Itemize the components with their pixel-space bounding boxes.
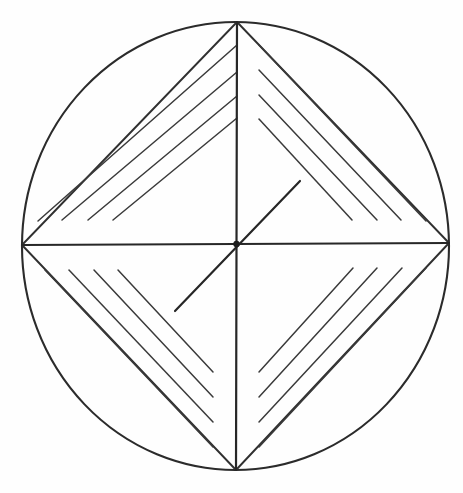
center-vertex-dot: [233, 241, 239, 247]
figure-background: [0, 0, 463, 493]
geometry-figure: Circle with inscribed square and quadran…: [0, 0, 463, 493]
